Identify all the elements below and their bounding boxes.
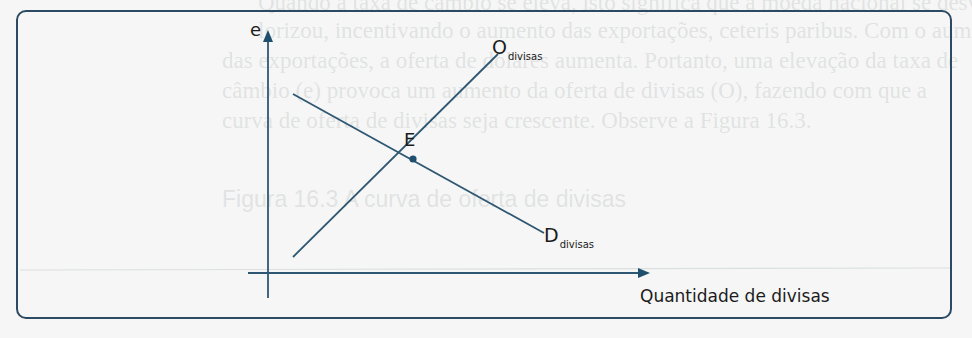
y-axis-label: e (250, 21, 261, 39)
demand-label-main: D (544, 224, 559, 246)
equilibrium-label: E (404, 131, 415, 149)
bleed-rule-line (20, 268, 950, 270)
supply-curve-line (293, 54, 498, 257)
page: Quando a taxa de câmbio se eleva, isto s… (0, 0, 972, 338)
demand-label-subscript: divisas (560, 239, 594, 250)
x-axis-arrow-icon (638, 268, 650, 278)
demand-curve-label: Ddivisas (544, 226, 594, 245)
x-axis-label: Quantidade de divisas (640, 288, 830, 305)
supply-label-subscript: divisas (508, 51, 542, 62)
supply-label-main: O (492, 36, 507, 58)
equilibrium-point (409, 155, 416, 162)
demand-curve-line (293, 94, 544, 233)
y-axis-arrow-icon (263, 30, 273, 42)
supply-curve-label: Odivisas (492, 38, 542, 57)
